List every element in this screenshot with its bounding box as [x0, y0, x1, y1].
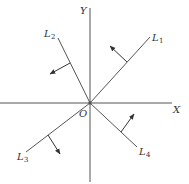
l2-normal-arrow [50, 63, 70, 74]
line-l2 [58, 38, 90, 103]
label-l4: L 4 [138, 146, 151, 159]
svg-text:4: 4 [146, 151, 151, 159]
x-axis-label: X [172, 104, 181, 115]
svg-text:L: L [16, 151, 24, 162]
line-l1 [90, 37, 150, 103]
label-l3: L 3 [16, 151, 28, 164]
svg-text:L: L [138, 146, 146, 157]
svg-text:L: L [151, 32, 159, 43]
l4-normal-arrow [121, 114, 134, 132]
l3-normal-arrow [48, 135, 60, 154]
line-l4 [90, 103, 137, 147]
svg-text:1: 1 [159, 37, 163, 45]
origin-label: O [79, 108, 87, 119]
l1-normal-arrow [110, 46, 127, 62]
y-axis-label: Y [80, 5, 88, 16]
label-l1: L 1 [151, 32, 163, 45]
svg-text:3: 3 [24, 156, 28, 164]
svg-text:L: L [43, 28, 51, 39]
label-l2: L 2 [43, 28, 55, 41]
coordinate-diagram: Y X O L 1 L 2 L 3 L 4 [0, 0, 189, 184]
svg-text:2: 2 [51, 33, 55, 41]
